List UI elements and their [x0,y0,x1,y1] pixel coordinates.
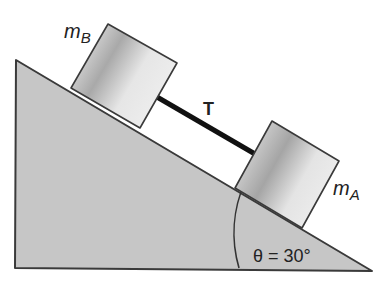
incline-diagram: mB mA T θ = 30° [0,0,385,288]
tension-label: T [203,99,214,119]
block-a-label: mA [333,177,360,203]
block-b-label: mB [64,20,91,46]
angle-label: θ = 30° [253,246,311,266]
